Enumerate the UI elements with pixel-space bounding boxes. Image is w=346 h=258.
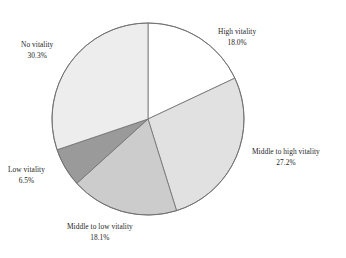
pie-chart: High vitality 18.0% Middle to high vital… — [0, 0, 346, 258]
slice-label-name: Middle to low vitality — [67, 222, 133, 233]
slice-label-percent: 27.2% — [252, 158, 320, 169]
slice-label-name: Middle to high vitality — [252, 147, 320, 158]
slice-label-name: No vitality — [21, 40, 53, 51]
slice-label-name: Low vitality — [8, 165, 45, 176]
pie-slices-group — [52, 23, 244, 215]
slice-label-percent: 6.5% — [8, 176, 45, 187]
pie-chart-canvas — [0, 0, 346, 258]
slice-label-middle-to-low-vitality: Middle to low vitality 18.1% — [67, 222, 133, 243]
slice-label-percent: 18.1% — [67, 233, 133, 244]
slice-label-middle-to-high-vitality: Middle to high vitality 27.2% — [252, 147, 320, 168]
slice-label-high-vitality: High vitality 18.0% — [218, 27, 256, 48]
slice-label-percent: 30.3% — [21, 51, 53, 62]
slice-label-no-vitality: No vitality 30.3% — [21, 40, 53, 61]
slice-label-percent: 18.0% — [218, 38, 256, 49]
slice-label-low-vitality: Low vitality 6.5% — [8, 165, 45, 186]
slice-label-name: High vitality — [218, 27, 256, 38]
